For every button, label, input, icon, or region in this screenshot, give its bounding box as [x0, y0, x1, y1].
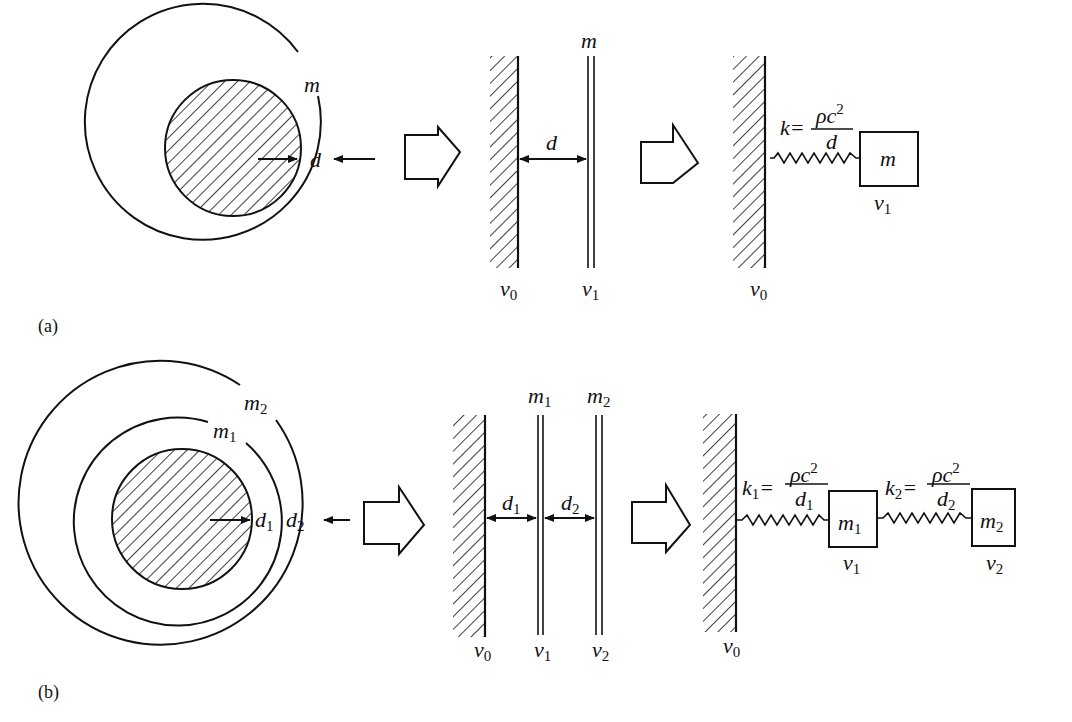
plate1-velocity-label: v1 [534, 637, 551, 664]
mass1-velocity-label: v1 [843, 550, 860, 577]
plate1-mass-label: m1 [528, 383, 551, 410]
stiffness1-label: k1= [742, 475, 774, 502]
plate2-velocity-label: v2 [592, 637, 609, 664]
panel-a: m d d m v0 v1 m k= ρc2 [38, 4, 918, 337]
inner-shell-mass-label: m1 [213, 418, 236, 445]
stiffness2-label: k2= [885, 475, 917, 502]
transform-arrow-icon [405, 127, 460, 186]
plate-mass-label: m [581, 28, 597, 53]
hatched-wall [733, 56, 765, 268]
sphere-single-shell: m d [85, 4, 375, 240]
panel-b: m2 m1 d1 d2 d1 d2 m1 m2 v0 v1 v2 [19, 361, 1015, 703]
spring-mass-single: m k= ρc2 d v1 v0 [733, 56, 918, 303]
outer-shell-mass-label: m2 [244, 390, 267, 417]
spring [770, 153, 860, 163]
hatched-wall [453, 415, 485, 637]
wall-velocity-label: v0 [750, 276, 767, 303]
hatched-wall [490, 56, 518, 268]
figure-canvas: m d d m v0 v1 m k= ρc2 [0, 0, 1072, 722]
gap2-label: d2 [561, 490, 580, 517]
spring-mass-double: m1 m2 k1= ρc2 d1 k2= ρc2 d2 v1 v2 v0 [703, 414, 1015, 660]
stiffness-numerator: ρc2 [815, 101, 844, 128]
panel-label-a: (a) [38, 316, 58, 337]
sphere-double-shell: m2 m1 d1 d2 [19, 361, 350, 645]
stiffness-label: k= [780, 115, 805, 140]
stiffness1-numerator: ρc2 [789, 460, 818, 487]
stiffness2-denominator: d2 [937, 486, 956, 513]
planar-single-plate: d m v0 v1 [490, 28, 599, 303]
wall-velocity-label: v0 [474, 637, 491, 664]
spring-1 [737, 515, 829, 525]
shell-mass-label: m [304, 72, 320, 97]
wall-velocity-label: v0 [723, 633, 740, 660]
panel-label-b: (b) [38, 682, 59, 703]
gap1-label: d1 [255, 507, 274, 534]
wall-velocity-label: v0 [500, 276, 517, 303]
plate2-mass-label: m2 [587, 383, 610, 410]
mass-velocity-label: v1 [874, 190, 891, 217]
stiffness1-denominator: d1 [795, 486, 814, 513]
gap1-label: d1 [502, 490, 521, 517]
mass2-velocity-label: v2 [986, 550, 1003, 577]
transform-arrow-icon [641, 125, 698, 183]
stiffness-denominator: d [826, 129, 838, 154]
stiffness2-numerator: ρc2 [931, 460, 960, 487]
transform-arrow-icon [364, 487, 424, 554]
spring-2 [877, 513, 972, 523]
gap-label: d [546, 130, 558, 155]
transform-arrow-icon [632, 485, 690, 552]
hatched-wall [703, 414, 736, 632]
planar-double-plate: d1 d2 m1 m2 v0 v1 v2 [453, 383, 610, 664]
plate-velocity-label: v1 [582, 276, 599, 303]
mass-label: m [880, 146, 896, 171]
hatched-core [165, 80, 301, 216]
gap-label: d [310, 147, 322, 172]
